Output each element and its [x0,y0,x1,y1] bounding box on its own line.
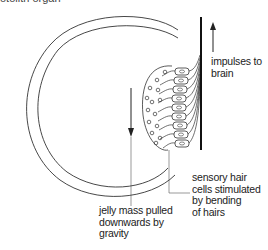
otoliths [145,70,167,145]
arrow-up-icon [210,22,216,52]
arrow-down-icon [128,88,134,137]
label-jelly-mass: jelly mass pulled downwards by gravity [99,205,173,240]
label-impulses: impulses to brain [211,56,262,79]
sac-wall [27,16,178,196]
hair-cells [172,68,189,147]
label-hair-cells: sensory hair cells stimulated by bending… [192,172,261,218]
hair-cells-leader-line [169,150,190,193]
